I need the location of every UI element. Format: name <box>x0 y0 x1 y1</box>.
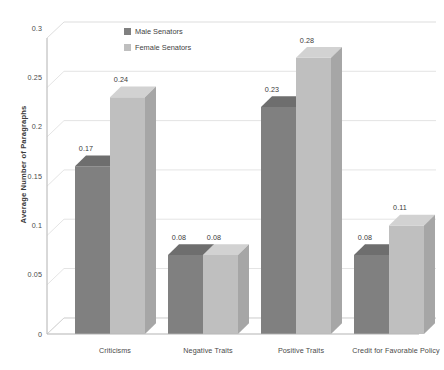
data-label-positive-traits-female: 0.28 <box>287 36 327 45</box>
legend-label-female: Female Senators <box>135 43 191 52</box>
legend-item-male[interactable]: Male Senators <box>124 25 191 38</box>
chart-legend: Male Senators Female Senators <box>124 25 191 57</box>
x-tick-positive-traits: Positive Traits <box>261 346 341 355</box>
bar-positive-traits-female[interactable] <box>296 47 342 334</box>
data-label-credit-favorable-policy-male: 0.08 <box>345 233 385 242</box>
bar-negative-traits-female[interactable] <box>203 244 249 334</box>
top-depth-edge <box>47 22 64 38</box>
data-label-credit-favorable-policy-female: 0.11 <box>380 203 420 212</box>
bar-credit-favorable-policy-female[interactable] <box>389 215 435 334</box>
x-tick-negative-traits: Negative Traits <box>168 346 248 355</box>
legend-swatch-female-icon <box>124 44 131 51</box>
legend-swatch-male-icon <box>124 28 131 35</box>
y-tick-0.25: 0.25 <box>14 73 42 82</box>
x-tick-credit-favorable-policy: Credit for Favorable Policy <box>348 346 444 355</box>
y-tick-0: 0 <box>14 330 42 339</box>
x-tick-criticisms: Criticisms <box>75 346 155 355</box>
legend-item-female[interactable]: Female Senators <box>124 41 191 54</box>
data-label-positive-traits-male: 0.23 <box>252 85 292 94</box>
y-tick-0.05: 0.05 <box>14 270 42 279</box>
y-tick-0.1: 0.1 <box>14 221 42 230</box>
y-axis-title: Average Number of Paragraphs <box>19 90 28 240</box>
y-tick-0.2: 0.2 <box>14 122 42 131</box>
y-tick-0.15: 0.15 <box>14 172 42 181</box>
data-label-criticisms-female: 0.24 <box>101 75 141 84</box>
data-label-negative-traits-female: 0.08 <box>194 233 234 242</box>
y-tick-0.3: 0.3 <box>14 24 42 33</box>
data-label-criticisms-male: 0.17 <box>66 144 106 153</box>
legend-label-male: Male Senators <box>135 27 183 36</box>
bar-criticisms-female[interactable] <box>110 86 156 334</box>
data-label-negative-traits-male: 0.08 <box>159 233 199 242</box>
